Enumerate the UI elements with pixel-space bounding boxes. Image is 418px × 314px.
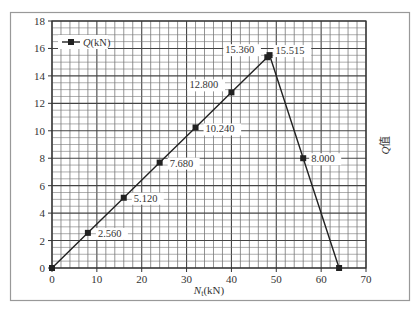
data-label: 12.800 <box>189 79 218 90</box>
data-point-marker <box>157 160 163 166</box>
x-tick-label: 20 <box>136 273 148 285</box>
data-point-marker <box>228 89 234 95</box>
data-label: 8.000 <box>311 153 335 164</box>
data-label: 2.560 <box>98 228 122 239</box>
x-tick-label: 50 <box>271 273 283 285</box>
data-point-marker <box>193 124 199 130</box>
data-label: 10.240 <box>206 123 235 134</box>
x-axis-label: Nt(kN) <box>193 284 225 298</box>
y-tick-label: 10 <box>34 125 46 137</box>
data-point-marker <box>300 155 306 161</box>
x-tick-label: 60 <box>316 273 328 285</box>
legend-label: Q(kN) <box>83 37 111 49</box>
legend: Q(kN) <box>58 35 111 49</box>
x-tick-label: 10 <box>91 273 103 285</box>
chart-frame <box>11 13 410 301</box>
data-point-marker <box>267 52 273 58</box>
x-tick-label: 70 <box>361 273 373 285</box>
y-tick-label: 8 <box>40 152 46 164</box>
data-point-marker <box>85 230 91 236</box>
x-tick-label: 40 <box>226 273 238 285</box>
y-tick-label: 6 <box>40 180 46 192</box>
data-label: 15.515 <box>276 45 305 56</box>
data-point-marker <box>336 265 342 271</box>
x-tick-label: 0 <box>49 273 55 285</box>
data-label: 15.360 <box>225 44 254 55</box>
x-tick-label: 30 <box>181 273 193 285</box>
chart: 010203040506070 024681012141618 2.5605.1… <box>0 0 418 314</box>
y-tick-label: 16 <box>34 42 46 54</box>
y-tick-label: 0 <box>40 262 46 274</box>
y-tick-label: 2 <box>40 235 46 247</box>
y-axis-label: Q值 <box>379 136 391 155</box>
data-point-marker <box>49 265 55 271</box>
data-label: 7.680 <box>170 158 194 169</box>
data-point-marker <box>121 195 127 201</box>
y-tick-label: 12 <box>34 97 45 109</box>
y-tick-label: 14 <box>34 70 46 82</box>
legend-marker-icon <box>68 39 74 45</box>
y-tick-label: 18 <box>34 15 46 27</box>
y-tick-label: 4 <box>40 207 46 219</box>
data-label: 5.120 <box>134 193 158 204</box>
